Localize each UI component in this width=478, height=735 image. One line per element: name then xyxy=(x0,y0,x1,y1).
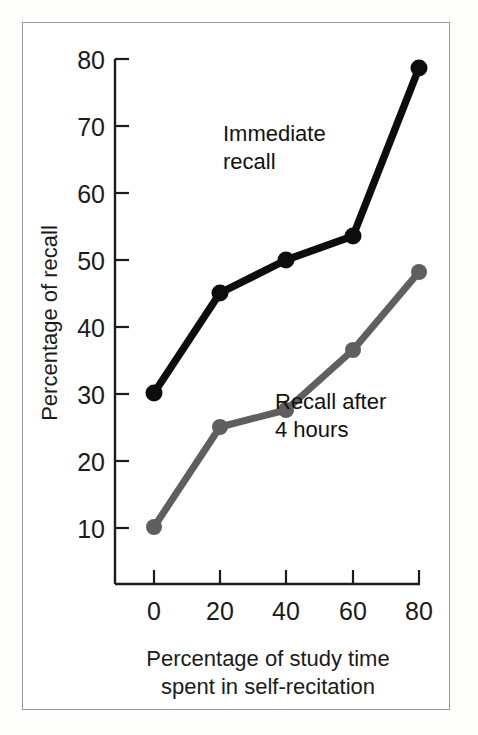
series-immediate-recall-point xyxy=(411,60,428,77)
series-immediate-recall xyxy=(146,60,428,402)
x-axis-ticks xyxy=(154,570,419,584)
annotation-recall-after-4-hours-line1: Recall after xyxy=(275,389,386,414)
y-tick-label-10: 10 xyxy=(77,515,105,543)
annotation-immediate-recall-line2: recall xyxy=(223,149,276,174)
x-axis-title-line1: Percentage of study time xyxy=(146,646,389,671)
y-tick-label-20: 20 xyxy=(77,448,105,476)
series-immediate-recall-point xyxy=(278,252,295,269)
x-axis-tick-labels: 0 20 40 60 80 xyxy=(147,597,433,625)
annotation-recall-after-4-hours-line2: 4 hours xyxy=(275,417,348,442)
y-tick-label-60: 60 xyxy=(77,180,105,208)
series-recall-after-4-hours-point xyxy=(212,419,228,435)
y-axis-title: Percentage of recall xyxy=(37,225,62,421)
series-immediate-recall-line xyxy=(154,68,419,393)
x-tick-label-40: 40 xyxy=(272,597,300,625)
figure-root: 80 70 60 50 40 30 20 10 0 20 40 60 80 Pe… xyxy=(0,0,478,735)
y-axis-ticks xyxy=(115,59,129,528)
x-tick-label-20: 20 xyxy=(206,597,234,625)
y-tick-label-50: 50 xyxy=(77,247,105,275)
y-tick-label-40: 40 xyxy=(77,314,105,342)
annotation-immediate-recall-line1: Immediate xyxy=(223,121,326,146)
series-immediate-recall-point xyxy=(345,228,362,245)
x-axis-title-line2: spent in self-recitation xyxy=(161,674,375,699)
series-recall-after-4-hours-point xyxy=(345,342,361,358)
series-recall-after-4-hours-point xyxy=(411,264,427,280)
annotation-immediate-recall: Immediate recall xyxy=(223,121,326,174)
series-recall-after-4-hours-point xyxy=(146,519,162,535)
series-immediate-recall-point xyxy=(146,385,163,402)
series-immediate-recall-point xyxy=(212,285,229,302)
y-axis-tick-labels: 80 70 60 50 40 30 20 10 xyxy=(77,46,105,543)
line-chart: 80 70 60 50 40 30 20 10 0 20 40 60 80 Pe… xyxy=(23,23,448,708)
x-tick-label-0: 0 xyxy=(147,597,161,625)
y-tick-label-70: 70 xyxy=(77,113,105,141)
y-tick-label-30: 30 xyxy=(77,381,105,409)
x-tick-label-60: 60 xyxy=(339,597,367,625)
figure-frame: 80 70 60 50 40 30 20 10 0 20 40 60 80 Pe… xyxy=(22,22,450,710)
y-tick-label-80: 80 xyxy=(77,46,105,74)
x-tick-label-80: 80 xyxy=(405,597,433,625)
